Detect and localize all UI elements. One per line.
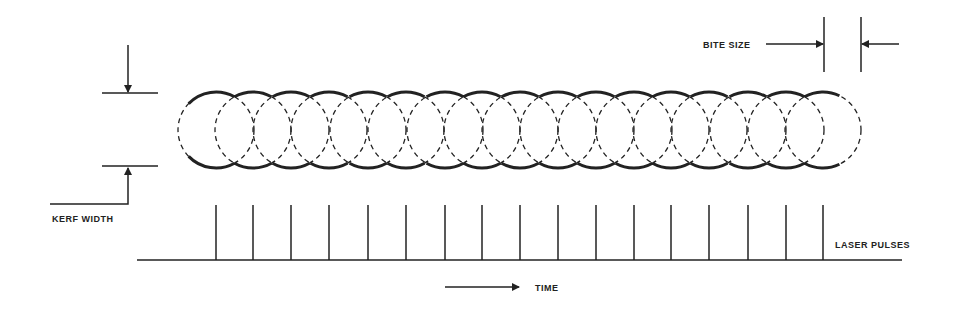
pulse-spot-circle bbox=[407, 92, 483, 168]
laser-pulse-train bbox=[216, 205, 823, 260]
kerf-bottom-edge bbox=[189, 156, 840, 168]
bite-size-label: BITE SIZE bbox=[703, 40, 751, 50]
kerf-bottom-arrow-icon bbox=[50, 168, 128, 204]
pulse-spot-circle bbox=[785, 92, 861, 168]
bite-size-dimension: BITE SIZE bbox=[703, 17, 899, 72]
pulse-spot-circles bbox=[178, 92, 861, 168]
kerf-edges bbox=[189, 92, 840, 168]
laser-kerf-diagram: KERF WIDTH BITE SIZE LASER PULSES TIME bbox=[0, 0, 962, 310]
kerf-width-label: KERF WIDTH bbox=[52, 214, 114, 224]
kerf-width-dimension: KERF WIDTH bbox=[50, 45, 158, 224]
laser-pulses-label: LASER PULSES bbox=[835, 240, 910, 250]
kerf-top-edge bbox=[189, 92, 840, 104]
time-label: TIME bbox=[535, 283, 559, 293]
